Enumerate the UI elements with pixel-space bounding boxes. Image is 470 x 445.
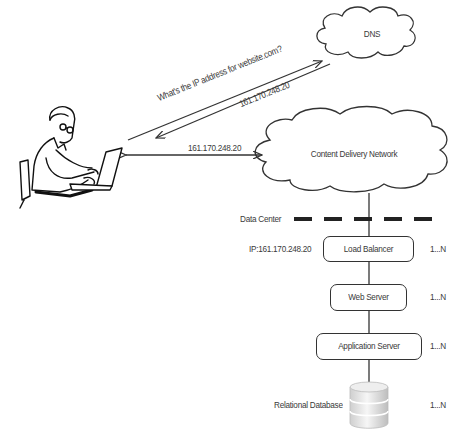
load-balancer-multiplicity: 1...N — [430, 243, 446, 255]
application-server-box: Application Server — [316, 333, 422, 360]
user-at-laptop-illustration — [20, 107, 122, 208]
cdn-label: Content Delivery Network — [302, 148, 405, 160]
load-balancer-box: Load Balancer — [323, 236, 414, 262]
web-server-multiplicity: 1...N — [430, 291, 446, 303]
load-balancer-label: Load Balancer — [330, 243, 407, 255]
cdn-link-label: 161.170.248.20 — [188, 142, 241, 154]
web-server-label: Web Server — [336, 291, 401, 303]
relational-database-label: Relational Database — [274, 399, 343, 411]
web-server-box: Web Server — [330, 284, 407, 311]
ip-label: IP:161.170.248.20 — [249, 243, 311, 255]
application-server-label: Application Server — [324, 340, 413, 352]
dns-label: DNS — [355, 28, 389, 40]
database-icon — [350, 382, 388, 428]
data-center-label: Data Center — [240, 213, 281, 225]
application-server-multiplicity: 1...N — [430, 340, 446, 352]
relational-database-multiplicity: 1...N — [430, 399, 446, 411]
